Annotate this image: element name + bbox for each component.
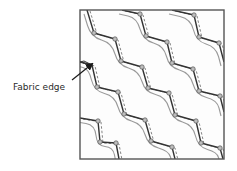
- vertex-circle-icon: [140, 65, 144, 69]
- vertex-circle-icon: [194, 119, 198, 123]
- vertex-circle-icon: [170, 145, 174, 149]
- vertex-circle-icon: [114, 141, 118, 145]
- vertex-circle-icon: [170, 61, 174, 65]
- vertex-circle-icon: [199, 141, 203, 145]
- vertex-circle-icon: [146, 86, 150, 90]
- vertex-circle-icon: [113, 37, 117, 41]
- vertex-circle-icon: [173, 113, 177, 117]
- fabric-diagram: Fabric edge: [0, 0, 237, 171]
- vertex-circle-icon: [149, 139, 153, 143]
- vertex-circle-icon: [116, 90, 120, 94]
- vertex-circle-icon: [122, 112, 126, 116]
- vertex-circle-icon: [197, 89, 201, 93]
- vertex-circle-icon: [96, 119, 100, 123]
- vertex-circle-icon: [143, 118, 147, 122]
- vertex-circle-icon: [144, 34, 148, 38]
- vertex-circle-icon: [191, 67, 195, 71]
- vertex-circle-icon: [218, 146, 222, 150]
- vertex-circle-icon: [217, 41, 221, 45]
- fabric-edge-label: Fabric edge: [13, 82, 65, 92]
- vertex-circle-icon: [98, 140, 102, 144]
- vertex-circle-icon: [167, 91, 171, 95]
- vertex-circle-icon: [197, 35, 201, 39]
- vertex-circle-icon: [119, 59, 123, 63]
- vertex-circle-icon: [92, 31, 96, 35]
- vertex-circle-icon: [138, 12, 142, 16]
- vertex-circle-icon: [218, 94, 222, 98]
- vertex-circle-icon: [192, 13, 196, 17]
- vertex-circle-icon: [165, 40, 169, 44]
- vertex-circle-icon: [95, 85, 99, 89]
